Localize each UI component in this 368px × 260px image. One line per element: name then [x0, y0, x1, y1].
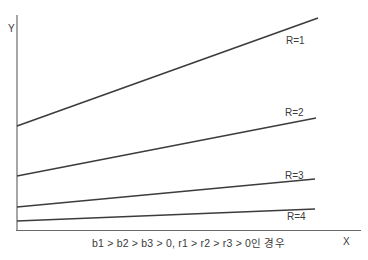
- label-r1: R=1: [286, 36, 305, 46]
- label-r3: R=3: [285, 171, 304, 181]
- diagram-canvas: [0, 0, 368, 260]
- line-r3: [17, 179, 315, 207]
- line-diagram: Y X R=1 R=2 R=3 R=4 b1 > b2 > b3 > 0, r1…: [0, 0, 368, 260]
- label-r2: R=2: [285, 108, 304, 118]
- label-r4: R=4: [287, 212, 306, 222]
- diagram-caption: b1 > b2 > b3 > 0, r1 > r2 > r3 > 0인 경우: [92, 238, 285, 249]
- line-r2: [17, 118, 316, 176]
- x-axis-label: X: [343, 237, 350, 247]
- line-r1: [17, 18, 318, 126]
- line-r4: [17, 209, 315, 221]
- y-axis-label: Y: [8, 24, 15, 34]
